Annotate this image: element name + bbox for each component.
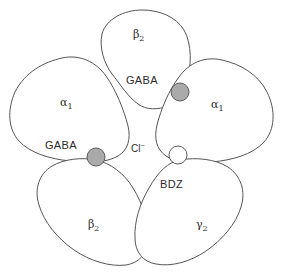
binding-site-label-gaba-left: GABA [45, 140, 77, 151]
subunit-shape-gamma-bottom [135, 159, 243, 265]
subunit-label-beta-top: β2 [133, 29, 144, 43]
chloride-charge: − [140, 142, 144, 149]
subunit-label-alpha-right: α1 [211, 99, 224, 113]
binding-site-gaba-left[interactable] [87, 148, 105, 166]
subunit-subscript-beta-top: 2 [139, 34, 144, 43]
subunit-greek-gamma-bottom: γ [196, 218, 203, 231]
subunit-subscript-alpha-right: 1 [218, 104, 223, 113]
subunit-label-alpha-left: α1 [60, 97, 73, 111]
subunit-subscript-alpha-left: 1 [67, 102, 72, 111]
binding-site-gaba-top[interactable] [171, 83, 189, 101]
subunit-label-beta-bottom: β2 [88, 219, 99, 233]
binding-site-label-bdz: BDZ [160, 179, 183, 190]
gaba-receptor-figure: β2 α1 α1 β2 γ2 GABA GABA BDZ Cl− [0, 0, 285, 274]
binding-site-label-gaba-top: GABA [126, 75, 158, 86]
subunit-shape-beta-bottom [37, 159, 148, 266]
binding-site-bdz[interactable] [169, 146, 187, 164]
subunit-label-gamma-bottom: γ2 [196, 219, 208, 233]
subunit-subscript-beta-bottom: 2 [94, 224, 99, 233]
subunit-subscript-gamma-bottom: 2 [203, 224, 208, 233]
chloride-ion-label: Cl− [131, 142, 145, 154]
